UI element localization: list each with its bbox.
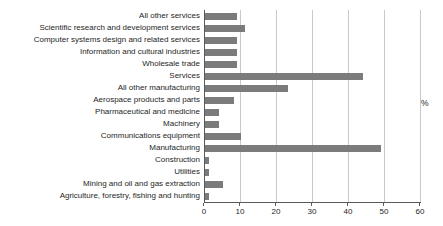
- bar-manufacturing: [205, 145, 381, 152]
- bar-aerospace-products-and-parts: [205, 97, 234, 104]
- bar-all-other-manufacturing: [205, 85, 288, 92]
- x-axis-tick-label: 30: [300, 207, 324, 216]
- x-axis-tick: [275, 203, 276, 206]
- x-axis-tick-label: 50: [372, 207, 396, 216]
- category-label: Wholesale trade: [0, 58, 200, 70]
- x-axis-tick-label: 10: [228, 207, 252, 216]
- bar-machinery: [205, 121, 219, 128]
- category-label: Construction: [0, 154, 200, 166]
- x-axis-tick: [239, 203, 240, 206]
- category-label: Agriculture, forestry, fishing and hunti…: [0, 190, 200, 202]
- category-label: Manufacturing: [0, 142, 200, 154]
- category-label: Utilities: [0, 166, 200, 178]
- category-label: All other manufacturing: [0, 82, 200, 94]
- category-label: Computer systems design and related serv…: [0, 34, 200, 46]
- bar-communications-equipment: [205, 133, 241, 140]
- x-axis: 0102030405060: [204, 203, 430, 225]
- plot-area: [204, 10, 421, 203]
- category-label: Machinery: [0, 118, 200, 130]
- gridline: [276, 10, 277, 202]
- category-label: Scientific research and development serv…: [0, 22, 200, 34]
- bar-chart-figure: All other servicesScientific research an…: [0, 0, 443, 226]
- x-axis-tick-label: 40: [336, 207, 360, 216]
- x-axis-tick: [203, 203, 204, 206]
- category-label: Information and cultural industries: [0, 46, 200, 58]
- category-label: Pharmaceutical and medicine: [0, 106, 200, 118]
- x-axis-tick: [419, 203, 420, 206]
- category-label: Mining and oil and gas extraction: [0, 178, 200, 190]
- x-axis-tick-label: 20: [264, 207, 288, 216]
- gridline: [384, 10, 385, 202]
- bar-pharmaceutical-and-medicine: [205, 109, 219, 116]
- bar-utilities: [205, 169, 209, 176]
- x-axis-tick: [347, 203, 348, 206]
- gridline: [348, 10, 349, 202]
- x-axis-tick-label: 0: [192, 207, 216, 216]
- bar-wholesale-trade: [205, 61, 237, 68]
- category-label: All other services: [0, 10, 200, 22]
- bar-all-other-services: [205, 13, 237, 20]
- category-label: Communications equipment: [0, 130, 200, 142]
- category-label: Services: [0, 70, 200, 82]
- bar-mining-and-oil-and-gas-extraction: [205, 181, 223, 188]
- percent-unit-label: %: [421, 98, 429, 108]
- bar-agriculture-forestry-fishing-and-hunting: [205, 193, 209, 200]
- category-label: Aerospace products and parts: [0, 94, 200, 106]
- x-axis-tick: [383, 203, 384, 206]
- bar-information-and-cultural-industries: [205, 49, 237, 56]
- bar-services: [205, 73, 363, 80]
- category-labels: All other servicesScientific research an…: [0, 10, 200, 202]
- bar-construction: [205, 157, 209, 164]
- bar-computer-systems-design-and-related-services: [205, 37, 237, 44]
- x-axis-tick: [311, 203, 312, 206]
- gridline: [312, 10, 313, 202]
- x-axis-tick-label: 60: [408, 207, 432, 216]
- bar-scientific-research-and-development-services: [205, 25, 245, 32]
- gridline: [240, 10, 241, 202]
